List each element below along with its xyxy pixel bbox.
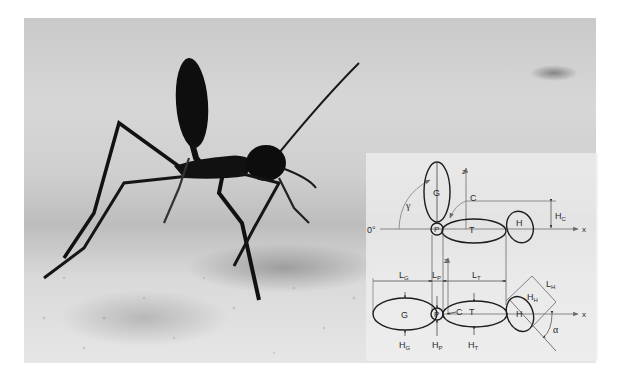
petiole-label-top: P [434,225,439,234]
hh-label: HH [527,292,538,303]
head-label-top: H [516,218,523,228]
c-label-top: C [470,193,477,203]
gaster-label-top: G [433,188,440,198]
head-label-bottom: H [516,309,523,319]
c-arrow [450,201,466,218]
thorax-label-top: T [469,225,475,235]
lg-label: LG [399,270,409,281]
lh-label: LH [546,279,555,290]
alpha-arc [543,314,552,338]
head-axis-line [508,298,556,351]
gamma-label: γ [405,200,411,211]
antenna-right [279,63,359,153]
ant-leg [64,123,184,258]
ant-gaster [173,57,211,149]
antenna-left [282,168,316,188]
bottom-view: G P T H C z x α LG LP LT LH HG HP HT HH [373,257,586,351]
lp-label: LP [432,270,441,281]
zero-degree-label: 0° [367,225,376,235]
ht-label: HT [468,340,479,351]
z-label-top: z [462,168,466,175]
petiole-label-bottom: P [434,310,439,319]
hg-label: HG [399,340,411,351]
x-label-bottom: x [582,310,586,319]
ant-leg [219,168,259,300]
c-label-bottom: C [456,307,463,317]
ant-leg [44,176,189,278]
lt-label: LT [472,270,481,281]
projection-lines [432,233,506,312]
top-view: 0° γ G P T H C z x HC [367,162,586,246]
x-label-top: x [582,225,586,234]
ant-leg [279,178,309,223]
alpha-label: α [553,324,559,335]
anatomy-diagram: 0° γ G P T H C z x HC [366,153,598,361]
hp-label: HP [432,340,443,351]
gaster-label-bottom: G [401,310,408,320]
thorax-label-bottom: T [469,307,475,317]
hc-label: HC [555,211,567,222]
z-label-bottom: z [444,257,448,264]
